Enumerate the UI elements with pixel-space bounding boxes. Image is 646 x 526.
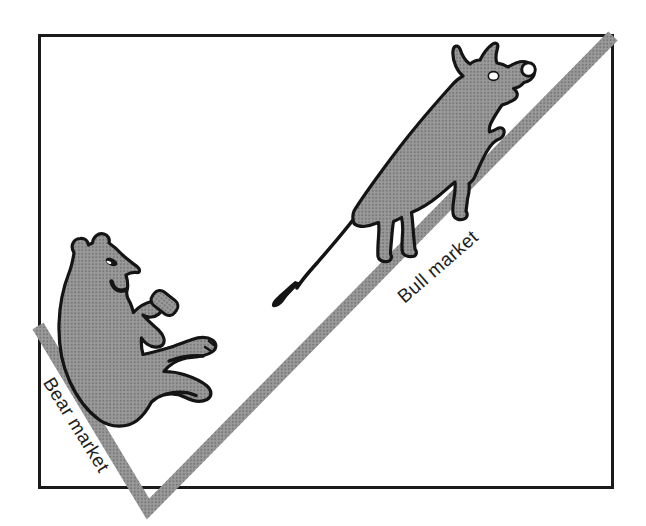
bear-body [59, 234, 216, 426]
bull-tail [297, 216, 356, 288]
figure-canvas: Bear market Bull market [0, 0, 646, 526]
bull-nose-ring [522, 63, 536, 77]
bull-eye [488, 72, 498, 81]
bear-illustration [59, 234, 216, 426]
bull-tail-tassel [272, 281, 301, 307]
bull-illustration [272, 43, 535, 307]
